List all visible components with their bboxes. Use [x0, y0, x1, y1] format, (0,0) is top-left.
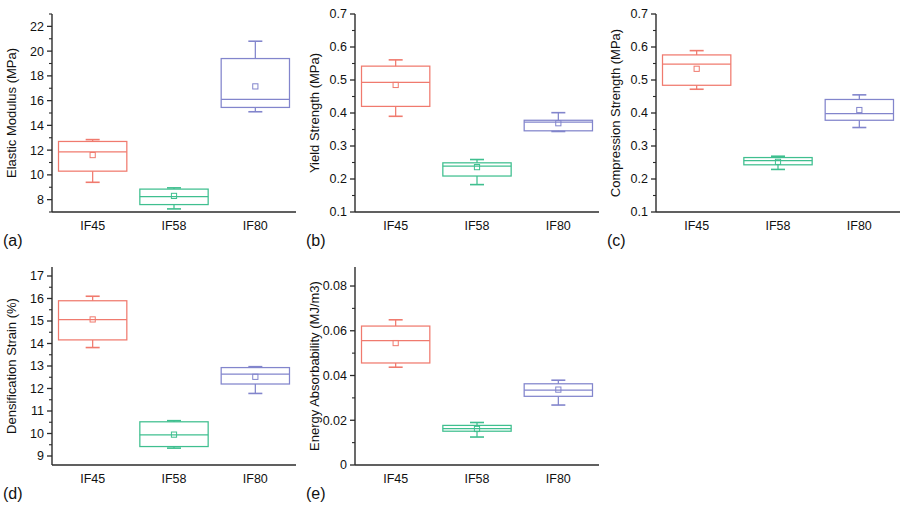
panel-letter: (d): [3, 485, 23, 503]
y-tick-label: 8: [37, 193, 44, 207]
box-IF45: [663, 51, 731, 90]
y-tick-label: 13: [30, 359, 44, 373]
y-tick-label: 12: [30, 382, 44, 396]
x-tick-label-IF58: IF58: [161, 472, 186, 486]
box-IF58: [140, 421, 208, 448]
box-IF45: [362, 320, 430, 367]
y-tick-label: 0.2: [631, 172, 648, 186]
mean-marker: [253, 374, 258, 379]
box-IF45: [59, 296, 127, 347]
y-tick-label: 16: [30, 292, 44, 306]
panel-letter: (a): [3, 232, 23, 250]
panel-letter: (b): [306, 232, 326, 250]
y-tick-label: 9: [37, 449, 44, 463]
x-tick-label-IF58: IF58: [464, 472, 489, 486]
panel-letter: (c): [607, 232, 626, 250]
mean-marker: [90, 152, 95, 157]
x-tick-label-IF58: IF58: [765, 219, 790, 233]
y-tick-label: 0.7: [330, 7, 347, 21]
y-tick-label: 10: [30, 427, 44, 441]
panel-d: 91011121314151617Densification Strain (%…: [0, 253, 300, 505]
box-IF80: [524, 113, 592, 132]
x-tick-label-IF45: IF45: [80, 219, 105, 233]
y-tick-label: 0.6: [631, 40, 648, 54]
box-IF45: [362, 60, 430, 116]
y-tick-label: 0.6: [330, 40, 347, 54]
box-IF80: [221, 367, 289, 394]
box-rect: [362, 66, 430, 106]
y-tick-label: 0.2: [330, 172, 347, 186]
x-tick-label-IF80: IF80: [847, 219, 872, 233]
x-tick-label-IF80: IF80: [546, 472, 571, 486]
box-rect: [362, 326, 430, 363]
panel-a: 810121416182022Elastic Modulus (MPa)IF45…: [0, 0, 300, 252]
y-tick-label: 0.02: [323, 414, 347, 428]
box-IF58: [443, 422, 511, 437]
y-tick-label: 12: [30, 144, 44, 158]
y-axis-title: Densification Strain (%): [4, 298, 19, 434]
y-axis-title: Energy Absorbability (MJ/m3): [307, 281, 322, 451]
boxplot-figure-grid: 810121416182022Elastic Modulus (MPa)IF45…: [0, 0, 902, 505]
y-tick-label: 0.5: [330, 73, 347, 87]
mean-marker: [393, 340, 398, 345]
x-tick-label-IF80: IF80: [243, 472, 268, 486]
mean-marker: [393, 82, 398, 87]
y-tick-label: 0.7: [631, 7, 648, 21]
box-rect: [663, 55, 731, 85]
y-tick-label: 0.1: [631, 205, 648, 219]
y-axis-title: Yield Strength (MPa): [307, 53, 322, 173]
panel-c: 0.10.20.30.40.50.60.7Compression Strengt…: [604, 0, 902, 252]
x-tick-label-IF58: IF58: [161, 219, 186, 233]
x-tick-label-IF58: IF58: [464, 219, 489, 233]
y-tick-label: 0.06: [323, 324, 347, 338]
mean-marker: [694, 66, 699, 71]
box-rect: [825, 99, 893, 120]
y-tick-label: 0.1: [330, 205, 347, 219]
y-tick-label: 0.4: [330, 106, 347, 120]
x-tick-label-IF80: IF80: [243, 219, 268, 233]
y-tick-label: 18: [30, 69, 44, 83]
box-IF80: [221, 41, 289, 112]
y-tick-label: 0.4: [631, 106, 648, 120]
y-tick-label: 0.3: [631, 139, 648, 153]
y-tick-label: 20: [30, 45, 44, 59]
box-IF58: [443, 160, 511, 185]
y-tick-label: 16: [30, 94, 44, 108]
mean-marker: [253, 84, 258, 89]
y-tick-label: 0.3: [330, 139, 347, 153]
y-tick-label: 15: [30, 314, 44, 328]
x-tick-label-IF45: IF45: [383, 219, 408, 233]
mean-marker: [857, 107, 862, 112]
y-tick-label: 11: [31, 404, 44, 418]
panel-letter: (e): [306, 485, 326, 503]
box-IF45: [59, 140, 127, 183]
box-rect: [59, 141, 127, 171]
y-tick-label: 0.5: [631, 73, 648, 87]
box-rect: [221, 59, 289, 108]
box-rect: [140, 422, 208, 447]
y-tick-label: 0: [340, 458, 347, 472]
box-rect: [744, 158, 812, 165]
y-tick-label: 22: [30, 20, 44, 34]
mean-marker: [556, 121, 561, 126]
box-rect: [221, 368, 289, 384]
panel-b: 0.10.20.30.40.50.60.7Yield Strength (MPa…: [303, 0, 603, 252]
mean-marker: [474, 165, 479, 170]
y-axis-title: Compression Strength (MPa): [608, 29, 623, 197]
box-IF80: [524, 380, 592, 405]
y-axis-title: Elastic Modulus (MPa): [4, 48, 19, 178]
x-tick-label-IF45: IF45: [383, 472, 408, 486]
y-tick-label: 14: [30, 119, 44, 133]
y-tick-label: 0.04: [323, 369, 347, 383]
y-tick-label: 14: [30, 337, 44, 351]
box-IF80: [825, 95, 893, 128]
box-rect: [59, 301, 127, 340]
y-tick-label: 10: [30, 168, 44, 182]
y-tick-label: 0.08: [323, 279, 347, 293]
y-tick-label: 17: [30, 269, 44, 283]
x-tick-label-IF45: IF45: [684, 219, 709, 233]
panel-e: 00.020.040.060.08Energy Absorbability (M…: [303, 253, 603, 505]
x-tick-label-IF80: IF80: [546, 219, 571, 233]
box-IF58: [744, 156, 812, 169]
x-tick-label-IF45: IF45: [80, 472, 105, 486]
